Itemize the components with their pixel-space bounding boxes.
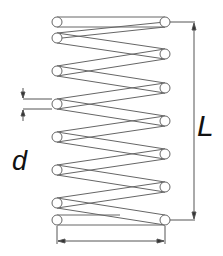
- dimension-d: [21, 88, 52, 121]
- wire-diameter-label: d: [12, 148, 27, 175]
- spring-coils: [57, 17, 165, 225]
- dimension-coil-diameter: [57, 226, 165, 244]
- length-label: L: [197, 111, 214, 141]
- spring-diagram: [0, 0, 223, 256]
- dimension-L: [170, 22, 196, 220]
